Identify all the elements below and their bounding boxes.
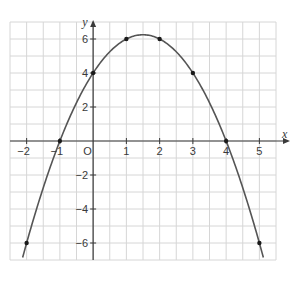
x-tick-label: 1 bbox=[123, 145, 129, 157]
y-axis-label: y bbox=[81, 15, 88, 29]
data-point bbox=[224, 139, 228, 143]
x-tick-label: 4 bbox=[223, 145, 229, 157]
x-tick-label: −1 bbox=[51, 145, 64, 157]
y-tick-label: 4 bbox=[82, 67, 88, 79]
x-tick-label: 5 bbox=[256, 145, 262, 157]
x-axis-label: x bbox=[281, 127, 288, 141]
data-point bbox=[191, 71, 195, 75]
data-point bbox=[157, 37, 161, 41]
origin-label: O bbox=[83, 145, 92, 157]
x-tick-label: 3 bbox=[190, 145, 196, 157]
y-tick-label: 2 bbox=[82, 101, 88, 113]
data-point bbox=[257, 241, 261, 245]
data-point bbox=[24, 241, 28, 245]
y-axis-arrow-icon bbox=[90, 20, 96, 27]
y-tick-label: −6 bbox=[76, 237, 89, 249]
x-tick-label: −2 bbox=[17, 145, 30, 157]
x-tick-label: 2 bbox=[157, 145, 163, 157]
parabola-chart: −2−112345−6−4−2246 x y O bbox=[0, 0, 297, 281]
y-tick-label: −4 bbox=[76, 203, 89, 215]
data-point bbox=[124, 37, 128, 41]
data-point bbox=[58, 139, 62, 143]
y-tick-label: 6 bbox=[82, 33, 88, 45]
data-point bbox=[91, 71, 95, 75]
y-tick-label: −2 bbox=[76, 169, 89, 181]
